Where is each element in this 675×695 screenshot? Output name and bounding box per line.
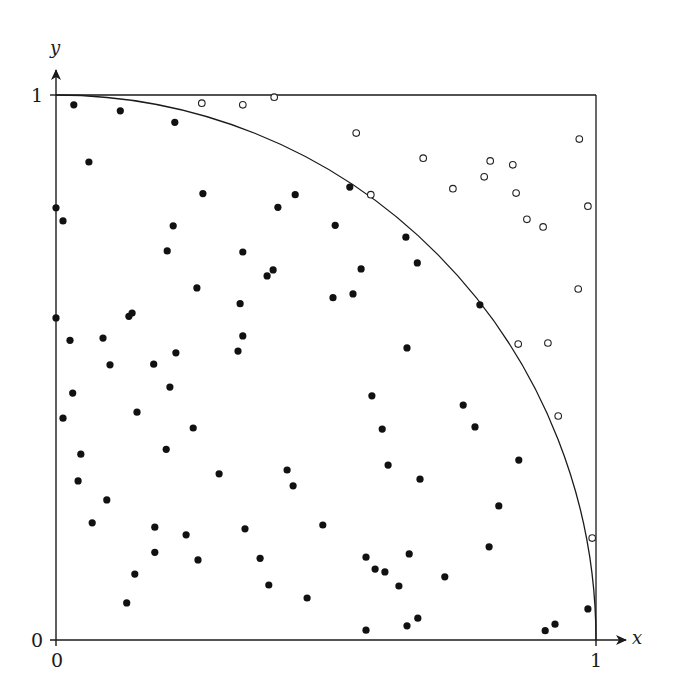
data-point-inside bbox=[346, 184, 353, 191]
data-point-inside bbox=[69, 390, 76, 397]
quarter-circle-arc bbox=[56, 95, 596, 640]
data-point-outside bbox=[545, 340, 552, 347]
data-point-inside bbox=[52, 314, 59, 321]
data-point-inside bbox=[164, 247, 171, 254]
data-point-inside bbox=[515, 457, 522, 464]
scatter-chart: 1 0 0 1 x y bbox=[0, 0, 675, 695]
data-point-outside bbox=[524, 216, 531, 223]
y-tick-label-0: 0 bbox=[31, 629, 43, 651]
data-point-inside bbox=[584, 605, 591, 612]
data-point-inside bbox=[416, 476, 423, 483]
data-point-inside bbox=[75, 477, 82, 484]
data-point-inside bbox=[486, 543, 493, 550]
data-point-inside bbox=[241, 525, 248, 532]
data-point-outside bbox=[240, 102, 247, 109]
data-point-inside bbox=[362, 554, 369, 561]
data-point-inside bbox=[414, 615, 421, 622]
data-point-inside bbox=[193, 284, 200, 291]
data-point-inside bbox=[476, 301, 483, 308]
data-point-outside bbox=[450, 185, 457, 192]
data-point-inside bbox=[385, 462, 392, 469]
data-point-inside bbox=[414, 259, 421, 266]
data-point-inside bbox=[77, 451, 84, 458]
data-point-inside bbox=[99, 335, 106, 342]
data-point-inside bbox=[237, 300, 244, 307]
data-point-inside bbox=[133, 409, 140, 416]
data-point-inside bbox=[257, 555, 264, 562]
data-point-inside bbox=[358, 265, 365, 272]
data-point-inside bbox=[284, 466, 291, 473]
data-point-inside bbox=[163, 446, 170, 453]
data-point-inside bbox=[89, 519, 96, 526]
data-point-inside bbox=[106, 361, 113, 368]
data-point-outside bbox=[481, 174, 488, 181]
data-point-outside bbox=[576, 136, 583, 143]
data-point-inside bbox=[150, 361, 157, 368]
data-point-inside bbox=[274, 204, 281, 211]
data-point-inside bbox=[151, 549, 158, 556]
data-point-inside bbox=[372, 566, 379, 573]
y-tick-label-1: 1 bbox=[31, 84, 43, 106]
data-point-inside bbox=[292, 191, 299, 198]
data-point-inside bbox=[131, 571, 138, 578]
series-inside-points bbox=[52, 101, 591, 634]
data-point-outside bbox=[420, 155, 427, 162]
data-point-inside bbox=[265, 581, 272, 588]
data-point-inside bbox=[239, 332, 246, 339]
data-point-outside bbox=[589, 535, 596, 542]
data-point-inside bbox=[403, 622, 410, 629]
data-point-inside bbox=[129, 309, 136, 316]
data-point-inside bbox=[460, 402, 467, 409]
data-point-inside bbox=[264, 272, 271, 279]
data-point-inside bbox=[379, 426, 386, 433]
data-point-outside bbox=[515, 341, 522, 348]
data-point-inside bbox=[270, 266, 277, 273]
data-point-inside bbox=[542, 627, 549, 634]
data-point-inside bbox=[59, 217, 66, 224]
data-point-inside bbox=[199, 190, 206, 197]
series-outside-points bbox=[199, 94, 596, 541]
data-point-inside bbox=[239, 248, 246, 255]
data-point-inside bbox=[170, 222, 177, 229]
data-point-inside bbox=[349, 290, 356, 297]
data-point-inside bbox=[103, 496, 110, 503]
data-point-inside bbox=[190, 424, 197, 431]
x-tick-label-1: 1 bbox=[590, 649, 602, 671]
data-point-inside bbox=[70, 101, 77, 108]
data-point-outside bbox=[199, 100, 206, 107]
x-axis-label: x bbox=[632, 627, 642, 648]
data-point-inside bbox=[395, 582, 402, 589]
data-point-inside bbox=[85, 158, 92, 165]
data-point-outside bbox=[510, 162, 517, 169]
data-point-outside bbox=[487, 158, 494, 165]
data-point-inside bbox=[304, 594, 311, 601]
data-point-outside bbox=[555, 413, 562, 420]
data-point-inside bbox=[52, 204, 59, 211]
data-point-inside bbox=[368, 392, 375, 399]
data-point-inside bbox=[362, 627, 369, 634]
data-point-inside bbox=[117, 107, 124, 114]
data-point-inside bbox=[123, 599, 130, 606]
data-point-inside bbox=[319, 521, 326, 528]
data-point-outside bbox=[513, 190, 520, 197]
data-point-inside bbox=[441, 573, 448, 580]
y-axis-label: y bbox=[49, 37, 61, 58]
data-point-inside bbox=[171, 119, 178, 126]
data-point-inside bbox=[551, 621, 558, 628]
data-point-outside bbox=[353, 130, 360, 137]
data-point-outside bbox=[540, 224, 547, 231]
x-tick-label-0: 0 bbox=[51, 649, 63, 671]
data-point-inside bbox=[194, 556, 201, 563]
data-point-inside bbox=[471, 423, 478, 430]
data-point-inside bbox=[495, 502, 502, 509]
data-point-inside bbox=[59, 415, 66, 422]
data-point-outside bbox=[271, 94, 278, 101]
data-point-inside bbox=[66, 337, 73, 344]
data-point-inside bbox=[183, 531, 190, 538]
data-point-inside bbox=[290, 482, 297, 489]
data-point-inside bbox=[216, 470, 223, 477]
data-point-inside bbox=[402, 234, 409, 241]
data-point-inside bbox=[332, 222, 339, 229]
data-point-outside bbox=[575, 286, 582, 293]
data-point-outside bbox=[368, 191, 375, 198]
